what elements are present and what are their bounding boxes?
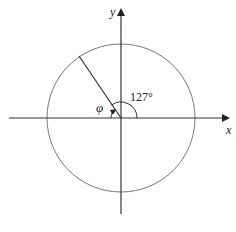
- diagram-canvas: y x 127° φ: [0, 0, 236, 232]
- angle-label-127: 127°: [130, 90, 153, 104]
- x-axis-label: x: [225, 123, 232, 137]
- y-axis-label: y: [109, 5, 116, 19]
- angle-arc-phi: [111, 110, 115, 118]
- angle-label-phi: φ: [96, 100, 103, 115]
